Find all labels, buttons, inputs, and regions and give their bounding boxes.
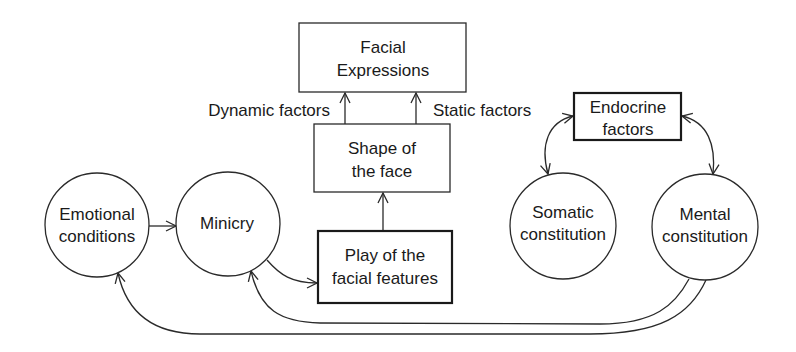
- node-somatic-constitution[interactable]: Somatic constitution: [510, 173, 616, 279]
- node-play-of-facial-features[interactable]: Play of the facial features: [318, 231, 452, 303]
- node-label-line: Play of the: [345, 246, 425, 265]
- node-label-line: Emotional: [59, 205, 135, 224]
- edge-label-static-factors: Static factors: [433, 101, 531, 120]
- node-label-line: Endocrine: [590, 98, 667, 117]
- node-emotional-conditions[interactable]: Emotional conditions: [45, 173, 149, 277]
- node-label-line: the face: [352, 162, 413, 181]
- node-mental-constitution[interactable]: Mental constitution: [652, 174, 758, 280]
- node-shape-of-face[interactable]: Shape of the face: [314, 124, 450, 192]
- node-label-line: Facial: [360, 38, 405, 57]
- node-label-line: constitution: [520, 225, 606, 244]
- node-label-line: Expressions: [337, 61, 430, 80]
- node-label-line: constitution: [662, 227, 748, 246]
- node-label-line: Shape of: [348, 139, 416, 158]
- edge-endocrine-somatic: [545, 116, 573, 174]
- edge-minicry-to-play: [267, 260, 317, 283]
- node-endocrine-factors[interactable]: Endocrine factors: [574, 93, 681, 140]
- diagram-canvas: Facial Expressions Shape of the face Pla…: [0, 0, 796, 352]
- node-minicry[interactable]: Minicry: [176, 172, 280, 276]
- node-label-line: facial features: [332, 269, 438, 288]
- edge-mental-to-minicry: [251, 271, 689, 324]
- edge-endocrine-mental: [682, 116, 714, 174]
- node-label-line: factors: [602, 120, 653, 139]
- node-label-line: conditions: [59, 227, 136, 246]
- node-label-line: Mental: [679, 205, 730, 224]
- edge-label-dynamic-factors: Dynamic factors: [208, 101, 330, 120]
- node-label-line: Somatic: [532, 203, 594, 222]
- node-facial-expressions[interactable]: Facial Expressions: [299, 23, 466, 92]
- node-label-line: Minicry: [200, 214, 254, 233]
